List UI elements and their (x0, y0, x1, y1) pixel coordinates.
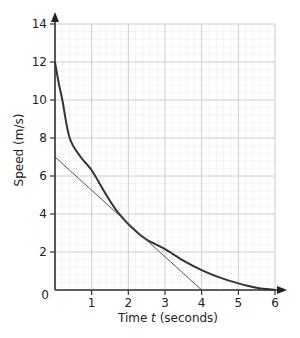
x-axis-arrow-icon (277, 286, 287, 294)
speed-time-chart: 1234562468101214 0 Time t (seconds) Spee… (0, 0, 300, 338)
y-tick-label: 8 (39, 131, 47, 145)
x-axis-title: Time t (seconds) (117, 311, 218, 325)
x-tick-label: 4 (198, 296, 206, 310)
x-tick-label: 5 (235, 296, 243, 310)
y-tick-label: 4 (39, 207, 47, 221)
origin-label: 0 (41, 288, 49, 302)
tick-labels: 1234562468101214 (32, 17, 279, 310)
y-tick-label: 14 (32, 17, 47, 31)
y-axis-arrow-icon (51, 12, 59, 22)
x-tick-label: 6 (271, 296, 279, 310)
y-tick-label: 6 (39, 169, 47, 183)
x-tick-label: 2 (125, 296, 133, 310)
y-tick-label: 10 (32, 93, 47, 107)
x-tick-label: 3 (161, 296, 169, 310)
y-tick-label: 2 (39, 245, 47, 259)
y-axis-title: Speed (m/s) (12, 114, 26, 187)
y-tick-label: 12 (32, 55, 47, 69)
x-tick-label: 1 (88, 296, 96, 310)
